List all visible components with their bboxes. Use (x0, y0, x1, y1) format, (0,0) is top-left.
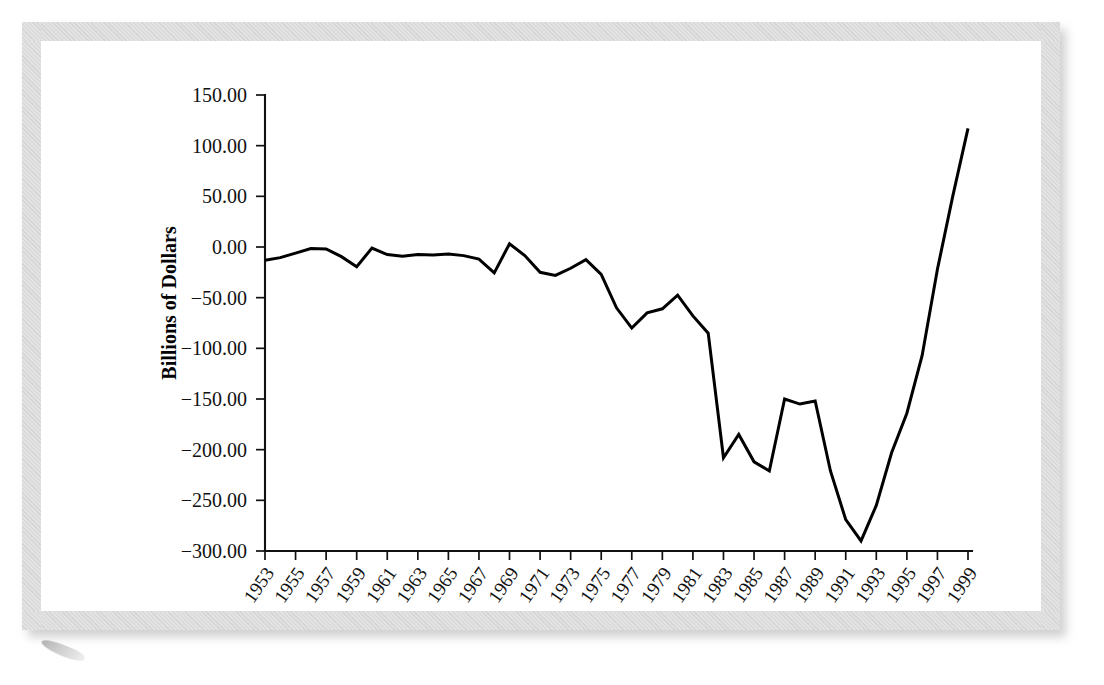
data-series-line (265, 128, 968, 540)
y-axis-tick-label: 100.00 (192, 135, 247, 157)
x-axis-tick-label: 1965 (423, 563, 462, 606)
y-axis-tick-label: 0.00 (212, 236, 247, 258)
x-axis-tick-label: 1983 (698, 563, 737, 606)
y-axis-tick-label: 50.00 (202, 185, 247, 207)
y-axis-tick-label: −300.00 (181, 540, 247, 562)
y-axis-tick-label: −250.00 (181, 489, 247, 511)
x-axis-tick-labels: 1953195519571959196119631965196719691971… (239, 563, 981, 606)
x-axis-tick-label: 1985 (728, 563, 767, 606)
x-axis-tick-label: 1973 (545, 563, 584, 606)
x-axis-tick-label: 1955 (270, 563, 309, 606)
x-axis-tick-label: 1975 (575, 563, 614, 606)
y-axis-title: Billions of Dollars (158, 226, 180, 380)
y-axis-tick-label: −200.00 (181, 439, 247, 461)
y-axis-tick-label: 150.00 (192, 84, 247, 106)
x-axis-tick-label: 1959 (331, 563, 370, 606)
x-axis-tick-marks (265, 551, 968, 560)
x-axis-tick-label: 1971 (514, 563, 553, 606)
x-axis-tick-label: 1953 (239, 563, 278, 606)
x-axis-tick-label: 1999 (942, 563, 981, 606)
x-axis-tick-label: 1989 (789, 563, 828, 606)
x-axis-tick-label: 1977 (606, 563, 645, 606)
x-axis-tick-label: 1961 (362, 563, 401, 606)
x-axis-tick-label: 1987 (759, 563, 798, 606)
y-axis-tick-marks (256, 95, 265, 551)
y-axis-tick-labels: 150.00100.0050.000.00−50.00−100.00−150.0… (181, 84, 247, 562)
figure-page: 150.00100.0050.000.00−50.00−100.00−150.0… (0, 0, 1104, 685)
y-axis-tick-label: −100.00 (181, 337, 247, 359)
x-axis-tick-label: 1981 (667, 563, 706, 606)
y-axis-tick-label: −50.00 (191, 287, 247, 309)
x-axis-tick-label: 1969 (484, 563, 523, 606)
x-axis-tick-label: 1991 (820, 563, 859, 606)
x-axis-tick-label: 1957 (300, 563, 339, 606)
x-axis-tick-label: 1993 (851, 563, 890, 606)
line-chart: 150.00100.0050.000.00−50.00−100.00−150.0… (0, 0, 1104, 685)
x-axis-tick-label: 1997 (912, 563, 951, 606)
x-axis-tick-label: 1967 (453, 563, 492, 606)
x-axis-tick-label: 1979 (637, 563, 676, 606)
x-axis-tick-label: 1995 (881, 563, 920, 606)
y-axis-tick-label: −150.00 (181, 388, 247, 410)
x-axis-tick-label: 1963 (392, 563, 431, 606)
